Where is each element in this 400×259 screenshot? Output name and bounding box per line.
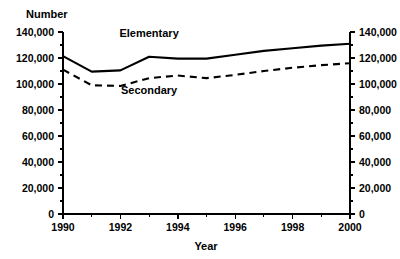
x-axis-title-group: Year (194, 240, 218, 252)
x-tick-label: 2000 (338, 221, 362, 233)
x-tick-label: 1996 (224, 221, 248, 233)
x-tick-label: 1990 (51, 221, 75, 233)
data-series-group (63, 44, 350, 86)
right-tick-label: 120,000 (359, 52, 397, 64)
series-line-secondary (63, 63, 350, 86)
right-tick-label: 100,000 (359, 78, 397, 90)
x-axis: 199019921994199619982000 (51, 214, 362, 233)
series-label-secondary: Secondary (121, 84, 178, 96)
right-tick-label: 40,000 (359, 156, 391, 168)
y-axis-title-group: Number (26, 8, 68, 20)
left-axis: 020,00040,00060,00080,000100,000120,0001… (16, 26, 63, 220)
y-axis-title: Number (26, 8, 68, 20)
x-tick-label: 1992 (109, 221, 133, 233)
right-tick-label: 140,000 (359, 26, 397, 38)
line-chart: Number 020,00040,00060,00080,000100,0001… (0, 0, 400, 259)
y-tick-label: 100,000 (16, 78, 54, 90)
x-tick-label: 1994 (166, 221, 190, 233)
right-tick-label: 0 (359, 208, 365, 220)
y-tick-label: 140,000 (16, 26, 54, 38)
y-tick-label: 40,000 (22, 156, 54, 168)
right-axis: 020,00040,00060,00080,000100,000120,0001… (350, 26, 397, 220)
series-label-elementary: Elementary (119, 27, 179, 39)
y-tick-label: 80,000 (22, 104, 54, 116)
right-tick-label: 80,000 (359, 104, 391, 116)
right-tick-label: 20,000 (359, 182, 391, 194)
x-axis-title: Year (194, 240, 218, 252)
y-tick-label: 120,000 (16, 52, 54, 64)
y-tick-label: 0 (48, 208, 54, 220)
chart-container: Number 020,00040,00060,00080,000100,0001… (0, 0, 400, 259)
y-tick-label: 60,000 (22, 130, 54, 142)
y-tick-label: 20,000 (22, 182, 54, 194)
right-tick-label: 60,000 (359, 130, 391, 142)
x-tick-label: 1998 (281, 221, 305, 233)
series-label-group: ElementarySecondary (119, 27, 179, 96)
series-line-elementary (63, 44, 350, 72)
